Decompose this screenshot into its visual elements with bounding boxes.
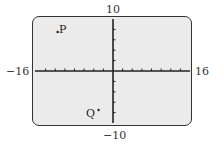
- y-max-label: 10: [106, 4, 120, 15]
- axes-plot: [0, 0, 209, 143]
- y-min-label: −10: [103, 130, 126, 141]
- point-q: [97, 109, 99, 111]
- x-max-label: 16: [195, 66, 209, 77]
- point-p-label: P: [59, 24, 66, 35]
- point-q-label: Q: [86, 108, 95, 119]
- x-min-label: −16: [6, 66, 29, 77]
